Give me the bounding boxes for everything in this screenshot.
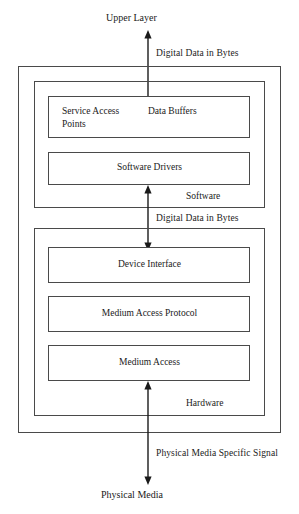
arrow-hardware-to-physical-media-icon [143,381,153,485]
medium-access-label: Medium Access [0,357,299,367]
arrow-hardware-to-physical-media [143,381,153,485]
software-drivers-label: Software Drivers [0,162,299,172]
hardware-section-label: Hardware [186,398,223,408]
software-section-label: Software [186,191,220,201]
diagram-canvas: Upper Layer Digital Data in Bytes Servic… [0,0,299,514]
arrow-label-physical-media-signal: Physical Media Specific Signal [156,447,278,459]
upper-layer-label: Upper Layer [106,12,157,23]
device-interface-label: Device Interface [0,259,299,269]
medium-access-protocol-label: Medium Access Protocol [0,308,299,318]
physical-media-label: Physical Media [101,489,163,500]
service-access-points-label: Service Access Points [62,105,119,131]
data-buffers-label: Data Buffers [148,105,197,118]
arrow-label-middle-digital-data: Digital Data in Bytes [156,212,239,224]
arrow-label-upper-digital-data: Digital Data in Bytes [156,47,239,59]
